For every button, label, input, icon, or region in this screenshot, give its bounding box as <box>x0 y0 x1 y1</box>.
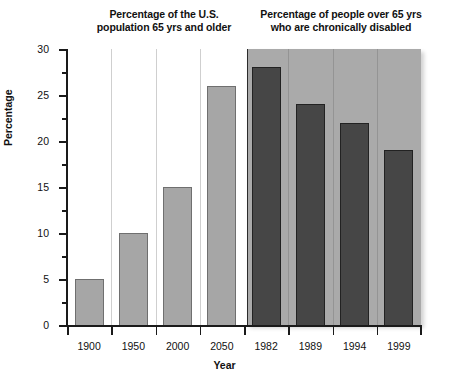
bar-1950 <box>119 233 148 325</box>
x-tick-label-2050: 2050 <box>210 340 233 352</box>
x-tick <box>377 326 379 335</box>
right-panel-title-line2: who are chronically disabled <box>238 21 444 34</box>
bar-1982 <box>252 67 281 325</box>
x-tick <box>67 326 69 335</box>
x-tick <box>200 326 202 335</box>
bar-1900 <box>75 279 104 325</box>
x-tick-label-1982: 1982 <box>254 340 277 352</box>
y-tick-label-5: 5 <box>9 273 49 285</box>
y-tick-label-10: 10 <box>9 227 49 239</box>
x-tick-label-layer: 19001950200020501982198919941999 <box>67 340 422 356</box>
bar-1994 <box>340 123 369 325</box>
x-tick-label-1989: 1989 <box>299 340 322 352</box>
x-axis-title: Year <box>0 359 449 371</box>
x-tick-label-1999: 1999 <box>387 340 410 352</box>
bar-1999 <box>384 150 413 325</box>
left-panel-title-line1: Percentage of the U.S. <box>88 8 240 21</box>
y-tick-label-30: 30 <box>9 43 49 55</box>
panel-divider <box>247 49 248 325</box>
y-tick-label-25: 25 <box>9 89 49 101</box>
x-tick <box>420 326 422 335</box>
y-axis-title: Percentage <box>2 89 14 146</box>
x-tick-label-2000: 2000 <box>166 340 189 352</box>
x-tick-label-1950: 1950 <box>122 340 145 352</box>
y-tick-label-20: 20 <box>9 135 49 147</box>
x-tick-layer <box>67 326 422 336</box>
category-gridline <box>111 49 112 325</box>
category-gridline <box>288 49 289 325</box>
x-tick-label-1900: 1900 <box>77 340 100 352</box>
category-gridline <box>156 49 157 325</box>
bar-2000 <box>163 187 192 325</box>
right-panel-title: Percentage of people over 65 yrs who are… <box>238 8 444 34</box>
category-gridline <box>200 49 201 325</box>
x-tick <box>244 326 246 335</box>
bar-2050 <box>207 86 236 325</box>
category-gridline <box>333 49 334 325</box>
right-panel-title-line1: Percentage of people over 65 yrs <box>238 8 444 21</box>
x-tick <box>156 326 158 335</box>
x-tick <box>333 326 335 335</box>
x-tick <box>111 326 113 335</box>
left-panel-title-line2: population 65 yrs and older <box>88 21 240 34</box>
left-panel-title: Percentage of the U.S. population 65 yrs… <box>88 8 240 34</box>
bar-chart: Percentage of the U.S. population 65 yrs… <box>0 0 449 385</box>
y-tick-label-15: 15 <box>9 181 49 193</box>
x-tick <box>288 326 290 335</box>
category-gridline <box>377 49 378 325</box>
x-tick-label-1994: 1994 <box>343 340 366 352</box>
y-tick-label-0: 0 <box>9 319 49 331</box>
plot-area <box>67 49 421 325</box>
bar-1989 <box>296 104 325 325</box>
